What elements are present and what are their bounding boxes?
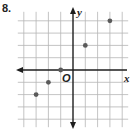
data-point bbox=[34, 92, 39, 97]
coordinate-plane: x y O bbox=[0, 0, 135, 136]
data-point bbox=[83, 43, 88, 48]
y-axis-label: y bbox=[75, 6, 82, 18]
y-axis-arrow-up-icon bbox=[70, 7, 76, 14]
x-axis-label: x bbox=[123, 72, 130, 84]
data-point bbox=[108, 18, 113, 23]
axes: x y O bbox=[16, 6, 130, 129]
origin-label: O bbox=[62, 72, 71, 84]
x-axis-arrow-left-icon bbox=[16, 67, 23, 73]
y-axis-arrow-down-icon bbox=[70, 122, 76, 129]
data-point bbox=[58, 68, 63, 73]
data-point bbox=[46, 80, 51, 85]
